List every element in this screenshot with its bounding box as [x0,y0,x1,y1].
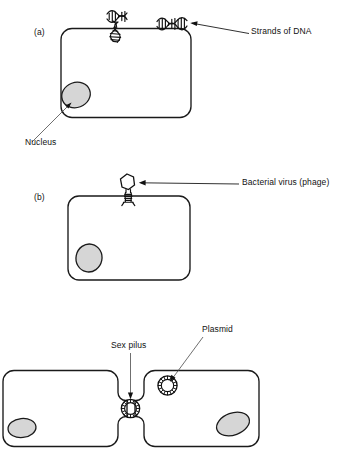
label-plasmid: Plasmid [202,325,233,334]
panel-b-tag: (b) [34,193,45,202]
panel-a-dna-strand-free [107,11,127,23]
panel-c-sex-pilus-ring [121,399,139,417]
panel-b-group [68,174,239,280]
label-strands-of-dna: Strands of DNA [251,27,311,36]
label-bacterial-virus-phage: Bacterial virus (phage) [242,178,329,187]
panel-a-arrowhead-strands-of-dna [190,21,197,26]
panel-c-arrowhead-sex-pilus [128,393,133,400]
panel-b-arrowhead-phage [139,180,146,185]
panel-a-tag: (a) [34,28,45,37]
panel-c-recipient-cell-right [135,371,259,447]
label-nucleus: Nucleus [25,138,56,147]
panel-a-leader-strands-of-dna [192,23,249,33]
panel-b-phage-head [121,174,135,190]
panel-b-leader-phage [141,183,239,184]
diagram-svg [0,0,339,467]
figure-canvas: (a) Strands of DNA Nucleus (b) Bacterial… [0,0,339,467]
panel-a-group [32,11,249,142]
label-sex-pilus: Sex pilus [111,341,146,350]
panel-c-group [3,337,259,447]
